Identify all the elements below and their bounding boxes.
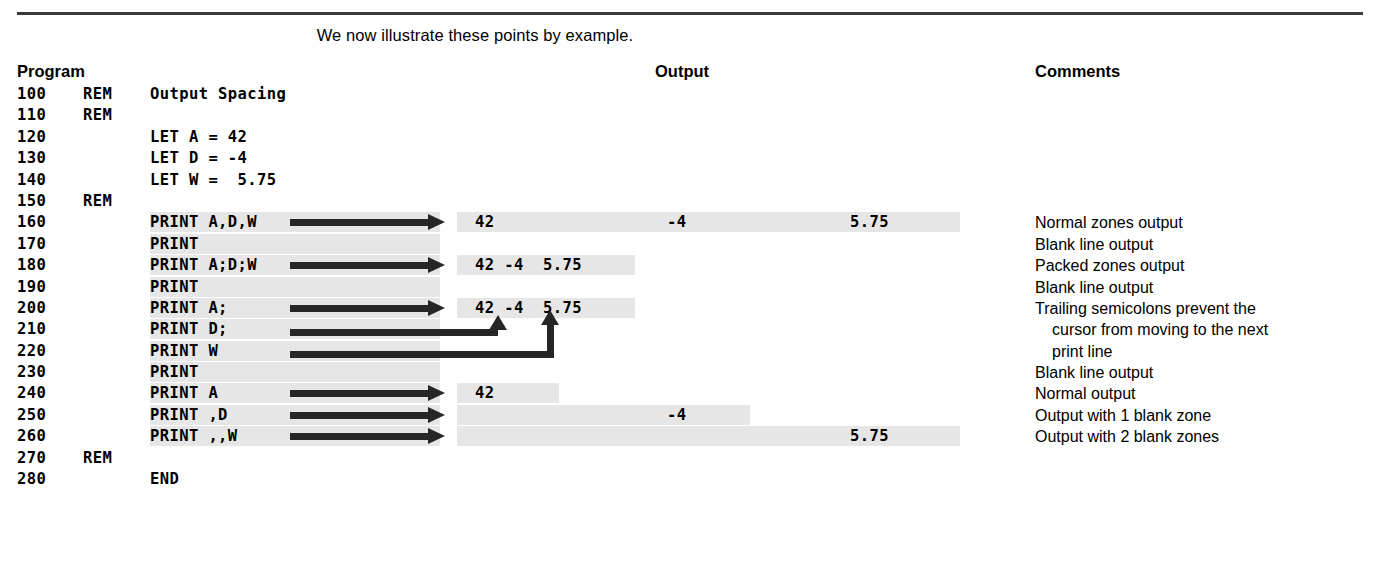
line-statement: PRINT W <box>150 341 218 361</box>
row-comment: Normal zones output <box>1035 213 1183 232</box>
line-keyword: REM <box>83 84 112 104</box>
output-highlight <box>457 405 750 425</box>
line-number: 280 <box>17 469 46 489</box>
row-comment: Blank line output <box>1035 235 1153 254</box>
column-header-comments: Comments <box>1035 62 1120 81</box>
column-header-program: Program <box>17 62 85 81</box>
output-highlight <box>457 383 559 403</box>
page-root: We now illustrate these points by exampl… <box>0 0 1380 586</box>
table-row: 230 PRINT Blank line output <box>0 361 1380 382</box>
table-row: 260 PRINT ,,W 5.75 Output with 2 blank z… <box>0 425 1380 446</box>
table-row: 150 REM <box>0 190 1380 211</box>
flow-arrow-head-right-icon <box>428 407 445 423</box>
row-comment: Output with 1 blank zone <box>1035 406 1211 425</box>
flow-arrow-shaft <box>290 433 430 440</box>
table-row: 160 PRINT A,D,W 42 -4 5.75 Normal zones … <box>0 211 1380 232</box>
line-keyword: REM <box>83 448 112 468</box>
flow-arrow-head-up-icon <box>541 310 559 325</box>
line-number: 220 <box>17 341 46 361</box>
line-number: 130 <box>17 148 46 168</box>
line-number: 250 <box>17 405 46 425</box>
row-comment: print line <box>1052 342 1112 361</box>
line-number: 210 <box>17 319 46 339</box>
row-comment: Blank line output <box>1035 278 1153 297</box>
line-statement: PRINT A; <box>150 298 228 318</box>
row-comment: Packed zones output <box>1035 256 1184 275</box>
flow-arrow-shaft <box>290 351 554 358</box>
table-row: 130 LET D = -4 <box>0 147 1380 168</box>
line-number: 240 <box>17 383 46 403</box>
output-value: 42 -4 5.75 <box>475 255 582 275</box>
line-keyword: REM <box>83 105 112 125</box>
table-row: 280 END <box>0 468 1380 489</box>
line-number: 140 <box>17 170 46 190</box>
table-row: 100 REM Output Spacing <box>0 83 1380 104</box>
line-statement: PRINT <box>150 277 199 297</box>
flow-arrow-shaft <box>290 329 498 336</box>
line-number: 160 <box>17 212 46 232</box>
program-listing: 100 REM Output Spacing 110 REM 120 LET A… <box>0 83 1380 489</box>
output-value: 42 <box>475 383 494 403</box>
line-number: 230 <box>17 362 46 382</box>
table-row: 120 LET A = 42 <box>0 126 1380 147</box>
output-value: 5.75 <box>850 212 889 232</box>
line-statement: PRINT A <box>150 383 218 403</box>
flow-arrow-head-right-icon <box>428 428 445 444</box>
flow-arrow-head-right-icon <box>428 214 445 230</box>
table-row: 220 PRINT W print line <box>0 340 1380 361</box>
flow-arrow-head-right-icon <box>428 257 445 273</box>
table-row: 140 LET W = 5.75 <box>0 169 1380 190</box>
line-statement: PRINT ,D <box>150 405 228 425</box>
line-statement: PRINT ,,W <box>150 426 238 446</box>
line-number: 150 <box>17 191 46 211</box>
line-number: 180 <box>17 255 46 275</box>
top-divider-rule <box>17 12 1363 15</box>
line-statement: PRINT A;D;W <box>150 255 257 275</box>
line-statement: Output Spacing <box>150 84 286 104</box>
row-comment: Normal output <box>1035 384 1136 403</box>
table-row: 170 PRINT Blank line output <box>0 233 1380 254</box>
table-row: 190 PRINT Blank line output <box>0 276 1380 297</box>
flow-arrow-shaft <box>290 262 430 269</box>
line-statement: LET A = 42 <box>150 127 247 147</box>
line-number: 100 <box>17 84 46 104</box>
flow-arrow-head-right-icon <box>428 300 445 316</box>
line-number: 110 <box>17 105 46 125</box>
line-number: 190 <box>17 277 46 297</box>
output-value: 5.75 <box>850 426 889 446</box>
table-row: 210 PRINT D; cursor from moving to the n… <box>0 318 1380 339</box>
flow-arrow-shaft <box>290 412 430 419</box>
line-statement: PRINT <box>150 234 199 254</box>
output-value: -4 <box>667 212 686 232</box>
line-statement: END <box>150 469 179 489</box>
line-number: 200 <box>17 298 46 318</box>
table-row: 180 PRINT A;D;W 42 -4 5.75 Packed zones … <box>0 254 1380 275</box>
flow-arrow-shaft <box>290 305 430 312</box>
row-comment: Output with 2 blank zones <box>1035 427 1219 446</box>
flow-arrow-shaft <box>290 390 430 397</box>
line-statement: LET D = -4 <box>150 148 247 168</box>
line-statement: LET W = 5.75 <box>150 170 277 190</box>
table-row: 240 PRINT A 42 Normal output <box>0 382 1380 403</box>
row-comment: cursor from moving to the next <box>1052 320 1268 339</box>
line-number: 170 <box>17 234 46 254</box>
flow-arrow-shaft <box>290 219 430 226</box>
line-keyword: REM <box>83 191 112 211</box>
row-comment: Blank line output <box>1035 363 1153 382</box>
output-value: 42 <box>475 212 494 232</box>
intro-caption: We now illustrate these points by exampl… <box>0 26 1165 45</box>
table-row: 250 PRINT ,D -4 Output with 1 blank zone <box>0 404 1380 425</box>
output-value: -4 <box>667 405 686 425</box>
table-row: 110 REM <box>0 104 1380 125</box>
line-statement: PRINT D; <box>150 319 228 339</box>
row-comment: Trailing semicolons prevent the <box>1035 299 1256 318</box>
flow-arrow-riser <box>547 322 554 354</box>
line-number: 260 <box>17 426 46 446</box>
line-number: 120 <box>17 127 46 147</box>
table-row: 200 PRINT A; 42 -4 5.75 Trailing semicol… <box>0 297 1380 318</box>
flow-arrow-head-up-icon <box>489 315 507 330</box>
line-number: 270 <box>17 448 46 468</box>
column-header-output: Output <box>655 62 709 81</box>
line-statement: PRINT A,D,W <box>150 212 257 232</box>
line-statement: PRINT <box>150 362 199 382</box>
